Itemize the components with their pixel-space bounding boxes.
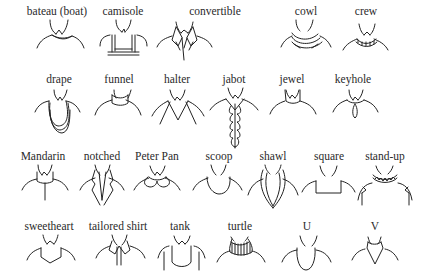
neckline-drawings — [0, 0, 429, 280]
drape-icon — [35, 90, 80, 133]
scoop-icon — [193, 165, 242, 194]
sweetheart-icon — [27, 235, 75, 263]
peter-pan-icon — [134, 166, 180, 190]
camisole-icon — [100, 20, 147, 55]
stand-up-icon — [358, 166, 412, 205]
u-neck-icon — [282, 236, 331, 270]
convertible-icon — [157, 22, 212, 60]
v-neck-icon — [352, 237, 398, 264]
bateau-icon — [37, 20, 84, 48]
mandarin-icon — [22, 165, 68, 200]
keyhole-icon — [333, 90, 378, 118]
halter-icon — [152, 90, 204, 124]
jewel-icon — [270, 90, 316, 114]
cowl-icon — [281, 20, 331, 48]
funnel-icon — [95, 90, 141, 115]
turtle-icon — [217, 237, 265, 262]
tailored-shirt-icon — [96, 235, 145, 265]
tank-icon — [158, 236, 205, 270]
crew-icon — [343, 24, 388, 50]
notched-icon — [80, 165, 124, 205]
shawl-icon — [248, 165, 298, 208]
square-icon — [302, 166, 355, 193]
jabot-icon — [210, 88, 258, 148]
